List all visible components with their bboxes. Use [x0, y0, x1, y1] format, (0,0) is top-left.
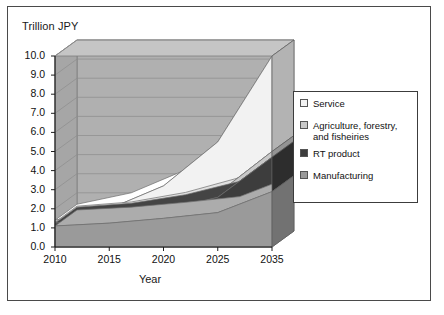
x-axis-tick-label: 2025 — [194, 253, 242, 265]
legend-label-service: Service — [313, 98, 345, 109]
y-axis-tick-label: 3.0 — [11, 183, 45, 195]
x-axis-tick-label: 2015 — [85, 253, 133, 265]
legend-swatch-manufacturing — [300, 171, 308, 179]
y-axis-tick-label: 6.0 — [11, 125, 45, 137]
y-axis-tick-label: 10.0 — [11, 49, 45, 61]
x-axis-tick-label: 2020 — [140, 253, 188, 265]
y-axis-tick-label: 2.0 — [11, 202, 45, 214]
y-axis-tick-label: 7.0 — [11, 106, 45, 118]
legend-swatch-agriculture — [300, 121, 308, 129]
legend-label-agriculture: Agriculture, forestry, and fisheiries — [313, 120, 412, 142]
chart-figure: Trillion JPY Year Service Agriculture, f… — [0, 0, 444, 315]
y-axis-tick-label: 9.0 — [11, 68, 45, 80]
legend-item-agriculture[interactable]: Agriculture, forestry, and fisheiries — [300, 120, 412, 142]
y-axis-tick-label: 0.0 — [11, 240, 45, 252]
legend-item-rt-product[interactable]: RT product — [300, 148, 412, 159]
legend-swatch-service — [300, 99, 308, 107]
legend-item-manufacturing[interactable]: Manufacturing — [300, 170, 412, 181]
legend-item-service[interactable]: Service — [300, 98, 412, 109]
y-axis-tick-label: 5.0 — [11, 145, 45, 157]
x-axis-tick-label: 2010 — [31, 253, 79, 265]
y-axis-tick-label: 1.0 — [11, 221, 45, 233]
legend-label-rt-product: RT product — [313, 148, 360, 159]
legend-label-manufacturing: Manufacturing — [313, 170, 373, 181]
legend-swatch-rt-product — [300, 149, 308, 157]
x-axis-tick-label: 2035 — [248, 253, 296, 265]
y-axis-tick-label: 4.0 — [11, 164, 45, 176]
y-axis-tick-label: 8.0 — [11, 87, 45, 99]
chart-legend: Service Agriculture, forestry, and fishe… — [293, 91, 418, 203]
